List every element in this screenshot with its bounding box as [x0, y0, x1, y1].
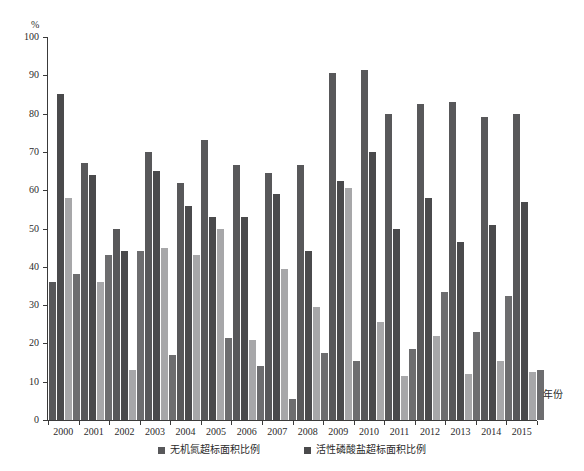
x-axis-tick: [293, 421, 294, 425]
bar-group: [480, 37, 512, 420]
x-axis-tick: [140, 421, 141, 425]
bar-group: [232, 37, 264, 420]
x-axis-tick: [201, 421, 202, 425]
x-axis-tick-label: 2013: [445, 426, 476, 438]
bar: [289, 399, 296, 420]
legend-label: 活性磷酸盐超标面积比例: [316, 444, 426, 456]
x-axis-tick: [323, 421, 324, 425]
bar: [329, 73, 336, 420]
bar: [401, 376, 408, 420]
bar-group: [384, 37, 416, 420]
y-axis-tick-label: 30: [29, 300, 39, 310]
x-axis-tick: [79, 421, 80, 425]
bar-group: [328, 37, 360, 420]
bar: [169, 355, 176, 420]
bar: [145, 152, 152, 420]
bar-group: [360, 37, 384, 420]
y-axis-tick-label: 10: [29, 377, 39, 387]
legend-item[interactable]: 活性磷酸盐超标面积比例: [304, 444, 426, 456]
x-axis-tick: [537, 421, 538, 425]
y-axis-tick-label: 70: [29, 147, 39, 157]
x-axis-tick: [384, 421, 385, 425]
x-axis-tick-label: 2000: [48, 426, 79, 438]
bar: [97, 282, 104, 420]
y-axis-tick: 40: [42, 267, 47, 268]
y-axis-tick-label: 90: [29, 70, 39, 80]
bar: [153, 171, 160, 420]
bar: [377, 322, 384, 420]
x-axis-tick: [262, 421, 263, 425]
bar: [473, 332, 480, 420]
y-axis-tick: 20: [42, 343, 47, 344]
y-axis-tick: 10: [42, 382, 47, 383]
bar: [265, 173, 272, 420]
bar: [393, 229, 400, 421]
bar: [361, 70, 368, 420]
bar-group: [296, 37, 328, 420]
bar: [369, 152, 376, 420]
x-axis-tick: [445, 421, 446, 425]
bar: [305, 251, 312, 420]
bar: [273, 194, 280, 420]
legend-item[interactable]: 无机氮超标面积比例: [158, 444, 260, 456]
bar-groups: [48, 37, 537, 420]
plot-area: 0102030405060708090100 20002001200220032…: [47, 37, 537, 421]
y-axis-tick: 60: [42, 190, 47, 191]
x-axis-tick-label: 2015: [506, 426, 537, 438]
x-axis-labels: 2000200120022003200420052006200720082009…: [48, 426, 537, 438]
bar: [49, 282, 56, 420]
x-axis-tick-label: 2012: [415, 426, 446, 438]
x-axis-tick: [48, 421, 49, 425]
bar: [113, 229, 120, 421]
x-axis-tick-label: 2008: [293, 426, 324, 438]
bar: [185, 206, 192, 420]
y-axis-tick-label: 50: [29, 224, 39, 234]
bar-group: [80, 37, 112, 420]
bar: [177, 183, 184, 420]
x-axis-tick: [231, 421, 232, 425]
x-axis-tick: [109, 421, 110, 425]
bar: [121, 251, 128, 420]
y-axis-tick-label: 80: [29, 109, 39, 119]
y-axis-tick: 50: [42, 229, 47, 230]
legend-swatch-icon: [158, 447, 165, 454]
y-axis-tick-label: 100: [24, 32, 39, 42]
y-axis-tick: 70: [42, 152, 47, 153]
y-axis-tick-label: 60: [29, 185, 39, 195]
bar-group: [512, 37, 544, 420]
bar: [81, 163, 88, 420]
bar: [385, 114, 392, 420]
bar: [161, 248, 168, 420]
bar: [209, 217, 216, 420]
x-axis-tick: [476, 421, 477, 425]
x-axis-tick-label: 2014: [476, 426, 507, 438]
bar: [241, 217, 248, 420]
bar: [417, 104, 424, 420]
bar: [433, 336, 440, 420]
bar-group: [416, 37, 448, 420]
bar: [529, 372, 536, 420]
bar-group: [176, 37, 200, 420]
bar: [193, 255, 200, 420]
bar: [257, 366, 264, 420]
x-axis-tick-label: 2010: [354, 426, 385, 438]
legend-label: 无机氮超标面积比例: [170, 444, 260, 456]
bar: [345, 188, 352, 420]
bar: [441, 292, 448, 420]
bar: [465, 374, 472, 420]
bar: [105, 255, 112, 420]
x-axis-tick-label: 2004: [170, 426, 201, 438]
bar-group: [448, 37, 480, 420]
bar: [297, 165, 304, 420]
y-axis-tick-label: 40: [29, 262, 39, 272]
x-axis-ticks: [48, 421, 537, 425]
chart-figure: % 0102030405060708090100 200020012002200…: [0, 0, 584, 471]
bar: [137, 251, 144, 420]
bar: [409, 349, 416, 420]
bar: [217, 229, 224, 421]
bar: [337, 181, 344, 420]
bar: [489, 225, 496, 420]
y-axis-tick: 30: [42, 305, 47, 306]
x-axis-tick-label: 2011: [384, 426, 415, 438]
y-axis-unit-label: %: [31, 20, 39, 30]
